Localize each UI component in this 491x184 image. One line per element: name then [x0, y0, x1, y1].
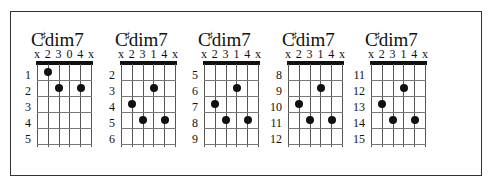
fret-number: 1 [13, 69, 31, 81]
fret-number: 2 [97, 69, 115, 81]
finger-label: x [420, 48, 430, 60]
string-line [414, 64, 415, 147]
fret-line [121, 80, 176, 81]
fret-number: 14 [347, 117, 365, 129]
sharp-symbol: ♯ [208, 30, 213, 41]
finger-label: 3 [221, 48, 231, 60]
string-line [59, 64, 60, 147]
string-line [403, 64, 404, 147]
finger-dot [55, 84, 63, 92]
finger-label: 3 [388, 48, 398, 60]
finger-dot [378, 100, 386, 108]
finger-label: x [366, 48, 376, 60]
fret-number: 6 [97, 133, 115, 145]
finger-label: 2 [43, 48, 53, 60]
string-line [226, 64, 227, 147]
fret-line [204, 96, 259, 97]
fret-number: 4 [97, 101, 115, 113]
string-line [37, 64, 38, 147]
finger-label: 4 [409, 48, 419, 60]
finger-label: x [283, 48, 293, 60]
string-line [371, 64, 372, 147]
string-line [69, 64, 70, 147]
string-line [48, 64, 49, 147]
string-line [247, 64, 248, 147]
fret-line [121, 112, 176, 113]
finger-dot [317, 84, 325, 92]
fret-line [37, 128, 92, 129]
fretboard-grid [37, 64, 92, 148]
fretboard-grid [121, 64, 176, 148]
sharp-symbol: ♯ [125, 30, 130, 41]
fret-number: 3 [13, 101, 31, 113]
fretboard-grid [371, 64, 426, 148]
finger-dot [128, 100, 136, 108]
fret-line [37, 96, 92, 97]
fret-line [288, 128, 343, 129]
finger-dot [222, 116, 230, 124]
sharp-symbol: ♯ [375, 30, 380, 41]
fret-line [371, 128, 426, 129]
string-line [331, 64, 332, 147]
finger-dot [411, 116, 419, 124]
finger-dot [400, 84, 408, 92]
string-line [153, 64, 154, 147]
fret-line [37, 80, 92, 81]
string-line [175, 64, 176, 147]
sharp-symbol: ♯ [292, 30, 297, 41]
string-line [204, 64, 205, 147]
string-line [236, 64, 237, 147]
fret-number: 9 [264, 85, 282, 97]
fret-number: 11 [264, 117, 282, 129]
finger-label: 3 [138, 48, 148, 60]
finger-label: 1 [398, 48, 408, 60]
fret-number: 15 [347, 133, 365, 145]
finger-label: 0 [64, 48, 74, 60]
fret-number: 12 [347, 85, 365, 97]
fret-line [288, 144, 343, 145]
fret-number: 3 [97, 85, 115, 97]
finger-dot [328, 116, 336, 124]
fret-line [121, 96, 176, 97]
finger-dot [233, 84, 241, 92]
finger-label: 4 [326, 48, 336, 60]
finger-label: 2 [294, 48, 304, 60]
finger-label: x [170, 48, 180, 60]
fret-line [204, 112, 259, 113]
fret-line [121, 144, 176, 145]
fret-line [37, 112, 92, 113]
fret-number: 5 [97, 117, 115, 129]
fret-number: 9 [180, 133, 198, 145]
finger-dot [389, 116, 397, 124]
string-line [288, 64, 289, 147]
finger-dot [44, 68, 52, 76]
string-line [91, 64, 92, 147]
string-line [143, 64, 144, 147]
finger-label: 2 [127, 48, 137, 60]
finger-dot [211, 100, 219, 108]
finger-dot [244, 116, 252, 124]
fret-number: 11 [347, 69, 365, 81]
finger-dot [295, 100, 303, 108]
finger-label: 4 [159, 48, 169, 60]
fret-line [37, 144, 92, 145]
string-line [342, 64, 343, 147]
finger-dot [150, 84, 158, 92]
string-line [258, 64, 259, 147]
finger-label: 4 [242, 48, 252, 60]
fret-line [371, 80, 426, 81]
finger-dot [139, 116, 147, 124]
fret-number: 12 [264, 133, 282, 145]
fret-line [121, 128, 176, 129]
fret-line [288, 96, 343, 97]
finger-label: 3 [54, 48, 64, 60]
finger-label: 4 [75, 48, 85, 60]
fret-line [204, 144, 259, 145]
fret-line [288, 80, 343, 81]
finger-label: 1 [231, 48, 241, 60]
fret-line [371, 96, 426, 97]
string-line [310, 64, 311, 147]
string-line [121, 64, 122, 147]
fretboard-grid [204, 64, 259, 148]
finger-label: x [199, 48, 209, 60]
